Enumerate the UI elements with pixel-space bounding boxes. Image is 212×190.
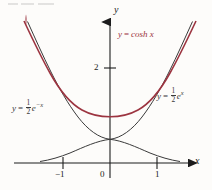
curve-label-half-exp-neg-x: y=12e−x xyxy=(12,99,43,116)
fraction-denominator: 2 xyxy=(171,96,177,104)
y-axis-label: y xyxy=(114,5,118,15)
curve-label-cosh: y=cosh x xyxy=(118,30,154,39)
curve-label-half-exp-x-equals: = xyxy=(161,91,170,101)
x-tick-label-zero: 0 xyxy=(100,170,105,179)
y-tick-label-2: 2 xyxy=(94,63,99,72)
curve-label-half-exp-neg-x-fraction: 12 xyxy=(26,99,32,116)
curve-label-cosh-equals: = xyxy=(122,29,131,39)
curve-label-half-exp-x: y=12ex xyxy=(157,87,184,104)
curve-label-half-exp-neg-x-equals: = xyxy=(16,103,25,113)
x-tick-label-minus1: −1 xyxy=(55,170,65,179)
fraction-denominator: 2 xyxy=(26,108,32,116)
curve-label-half-exp-x-exponent: x xyxy=(181,89,184,96)
x-axis-label: x xyxy=(195,156,199,166)
x-tick-label-plus1: 1 xyxy=(155,170,160,179)
figure-container: x y −1 0 1 2 y=cosh x y=12ex y=12e−x xyxy=(0,0,212,190)
curve-label-half-exp-x-fraction: 12 xyxy=(171,87,177,104)
curve-label-cosh-body: cosh x xyxy=(131,29,154,39)
curve-label-half-exp-neg-x-exponent: −x xyxy=(36,101,43,108)
